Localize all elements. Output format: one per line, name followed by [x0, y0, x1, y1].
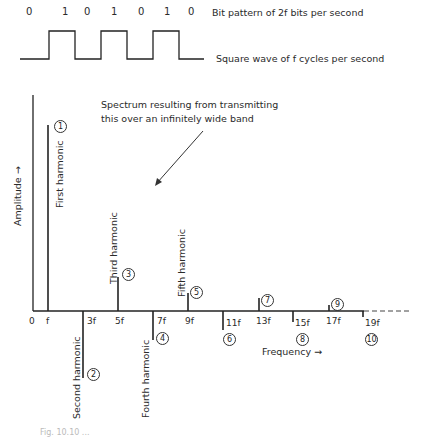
first-harmonic-label: First harmonic: [54, 140, 65, 208]
marker-9: 9: [331, 298, 344, 311]
marker-2: 2: [87, 368, 100, 381]
tick-3f: 3f: [87, 316, 96, 326]
marker-8: 8: [296, 333, 309, 346]
marker-10: 10: [365, 333, 378, 346]
marker-6: 6: [223, 333, 236, 346]
origin-label: 0: [29, 316, 35, 326]
marker-7: 7: [261, 294, 274, 307]
y-axis-label: Amplitude →: [12, 166, 23, 226]
annotation-line1: Spectrum resulting from transmitting: [101, 99, 278, 110]
marker-4: 4: [156, 332, 169, 345]
annotation-line2: this over an infinitely wide band: [101, 113, 254, 124]
tick-13f: 13f: [256, 316, 271, 326]
x-axis-label: Frequency →: [262, 346, 322, 357]
tick-5f: 5f: [115, 316, 124, 326]
marker-3: 3: [122, 268, 135, 281]
fourth-harmonic-label: Fourth harmonic: [140, 340, 151, 418]
marker-1: 1: [54, 120, 67, 133]
tick-11f: 11f: [226, 318, 241, 328]
tick-9f: 9f: [185, 316, 194, 326]
tick-17f: 17f: [326, 316, 341, 326]
third-harmonic-label: Third harmonic: [108, 212, 119, 284]
figure-caption: Fig. 10.10 ...: [40, 428, 89, 437]
tick-19f: 19f: [365, 318, 380, 328]
second-harmonic-label: Second harmonic: [71, 336, 82, 419]
square-wave: [20, 31, 204, 59]
marker-5: 5: [190, 286, 203, 299]
tick-15f: 15f: [295, 318, 310, 328]
tick-f: f: [46, 316, 49, 326]
tick-7f: 7f: [157, 316, 166, 326]
fifth-harmonic-label: Fifth harmonic: [176, 229, 187, 297]
